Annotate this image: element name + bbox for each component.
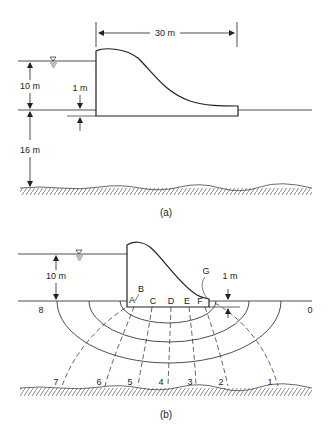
point-g-leader xyxy=(202,277,207,298)
equipotential-lines xyxy=(62,303,278,386)
point-b-label: B xyxy=(138,284,144,294)
equipotential-label-8: 8 xyxy=(38,305,43,315)
length-label: 30 m xyxy=(155,28,175,38)
water-depth-label: 10 m xyxy=(20,81,40,91)
dam-body xyxy=(96,49,238,116)
flow-lines xyxy=(57,301,281,363)
water-depth-label: 10 m xyxy=(46,271,66,281)
equipotential-label-2: 2 xyxy=(218,377,223,387)
water-level-icon xyxy=(76,250,83,260)
caption-b: (b) xyxy=(160,409,172,420)
equipotential-label-5: 5 xyxy=(127,377,132,387)
impervious-layer xyxy=(20,184,312,195)
point-e-label: E xyxy=(184,296,190,306)
equipotential-label-1: 1 xyxy=(267,377,272,387)
equipotential-label-4: 4 xyxy=(158,377,163,387)
point-f-label: F xyxy=(197,296,203,306)
figure-a: 30 m 10 m 1 m xyxy=(18,22,312,218)
water-depth-dimension: 10 m xyxy=(46,256,66,299)
embedment-label: 1 m xyxy=(222,271,237,281)
point-c-label: C xyxy=(150,296,157,306)
equipotential-label-7: 7 xyxy=(53,377,58,387)
soil-depth-dimension: 16 m xyxy=(20,112,40,186)
equipotential-label-6: 6 xyxy=(96,377,101,387)
point-d-label: D xyxy=(168,296,175,306)
point-a-label: A xyxy=(129,295,135,305)
water-level-icon xyxy=(50,57,57,67)
embedment-dimension: 1 m xyxy=(72,83,87,131)
caption-a: (a) xyxy=(160,207,172,218)
embedment-label: 1 m xyxy=(72,83,87,93)
figure-b: A B C D E F G 10 m 1 m 8 7 6 5 4 3 2 1 0 xyxy=(18,242,313,420)
length-dimension: 30 m xyxy=(96,22,237,47)
flow-net-diagram: 30 m 10 m 1 m xyxy=(0,0,332,441)
embedment-dimension: 1 m xyxy=(222,271,237,318)
water-depth-dimension: 10 m xyxy=(20,63,40,108)
equipotential-label-0: 0 xyxy=(307,305,312,315)
soil-depth-label: 16 m xyxy=(20,145,40,155)
point-g-label: G xyxy=(202,266,209,276)
